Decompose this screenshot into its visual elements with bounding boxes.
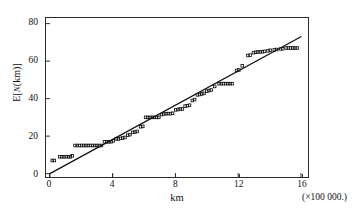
data-point-marker <box>53 159 56 162</box>
x-tick-mark <box>175 174 176 178</box>
x-axis-multiplier-label: (×100 000.) <box>302 192 347 202</box>
data-point-marker <box>296 47 299 50</box>
data-point-marker <box>129 133 132 136</box>
y-tick-label: 0 <box>33 170 38 180</box>
data-point-marker <box>71 155 74 158</box>
y-axis-title-suffix: (km)] <box>11 63 22 86</box>
data-point-marker <box>188 104 191 107</box>
figure-container: 020406080 E[N(km)] 0481216 km (×100 000.… <box>0 0 354 216</box>
data-point-markers <box>51 47 298 162</box>
plot-area <box>45 17 309 178</box>
y-tick-label: 80 <box>29 18 39 28</box>
data-point-marker <box>281 47 284 50</box>
y-axis-title: E[N(km)] <box>11 47 22 119</box>
data-point-marker <box>181 108 184 111</box>
data-point-marker <box>136 130 139 133</box>
y-tick-label: 60 <box>29 56 39 66</box>
plot-canvas <box>46 18 308 177</box>
data-point-marker <box>193 98 196 101</box>
data-point-marker <box>241 65 244 68</box>
x-tick-label: 16 <box>297 180 307 190</box>
data-point-marker <box>213 85 216 88</box>
data-point-marker <box>210 89 213 92</box>
data-point-marker <box>124 136 127 139</box>
data-point-marker <box>171 112 174 115</box>
data-point-marker <box>142 125 145 128</box>
data-point-marker <box>269 49 272 52</box>
x-tick-mark <box>239 174 240 178</box>
y-axis-title-prefix: E[ <box>11 92 22 101</box>
fitted-line-path <box>50 37 301 174</box>
y-tick-label: 40 <box>29 94 39 104</box>
fitted-line <box>50 37 301 174</box>
data-point-marker <box>263 50 266 53</box>
y-axis-title-n: N <box>12 86 22 92</box>
x-tick-mark <box>49 174 50 178</box>
data-point-marker <box>231 82 234 85</box>
y-tick-label: 20 <box>29 132 39 142</box>
x-tick-label: 4 <box>110 180 115 190</box>
inner-tick-marks <box>46 24 301 177</box>
data-point-marker <box>158 116 161 119</box>
x-axis-title: km <box>0 192 354 203</box>
data-point-marker <box>112 140 115 143</box>
y-axis-group: 020406080 <box>0 0 45 195</box>
x-tick-label: 12 <box>234 180 244 190</box>
data-point-marker <box>249 54 252 57</box>
x-tick-label: 8 <box>173 180 178 190</box>
x-tick-mark <box>302 174 303 178</box>
x-tick-label: 0 <box>47 180 52 190</box>
data-point-marker <box>203 92 206 95</box>
x-tick-mark <box>112 174 113 178</box>
